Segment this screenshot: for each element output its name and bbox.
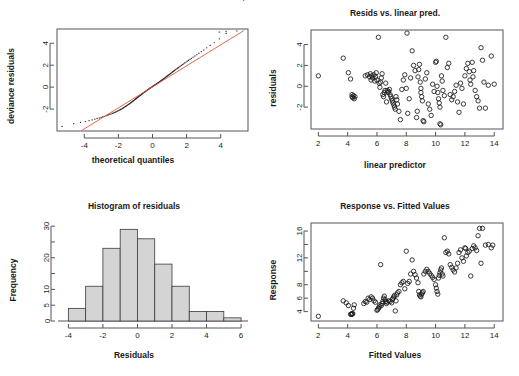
- data-point: [442, 236, 446, 240]
- data-point: [182, 64, 183, 65]
- data-point: [480, 58, 484, 62]
- data-point: [418, 80, 422, 84]
- response-vs-fitted-plot-frame: [311, 223, 503, 321]
- data-point: [463, 74, 467, 78]
- data-point: [447, 61, 451, 65]
- data-point: [482, 80, 486, 84]
- histogram-title: Histogram of residuals: [88, 201, 180, 211]
- data-point: [419, 94, 423, 98]
- qq-xlabel: theoretical quantiles: [92, 155, 175, 165]
- data-point: [411, 63, 415, 67]
- data-point: [194, 55, 195, 56]
- histogram-of-residuals-ytick-label: 10: [43, 284, 52, 293]
- response-plot-content: 24681012144681216: [296, 223, 504, 340]
- data-point: [479, 261, 483, 265]
- data-point: [186, 61, 187, 62]
- data-point: [435, 84, 439, 88]
- resids-vs-linear-pred-ytick-label: 4: [296, 42, 305, 47]
- data-point: [471, 75, 475, 79]
- response-xlabel: Fitted Values: [369, 350, 422, 360]
- data-point: [219, 38, 220, 39]
- data-point: [407, 97, 411, 101]
- resids-ylabel: residuals: [268, 69, 278, 107]
- histogram-of-residuals-ytick-label: 30: [43, 221, 52, 230]
- data-point: [408, 76, 412, 80]
- data-point: [401, 78, 405, 82]
- histogram-bar: [172, 286, 189, 321]
- data-point: [403, 287, 407, 291]
- data-point: [214, 42, 215, 43]
- data-point: [477, 106, 481, 110]
- resids-vs-linear-pred-xtick-label: 8: [404, 139, 409, 148]
- resids-vs-linear-pred-ytick-label: 0: [296, 84, 305, 89]
- histogram-ylabel: Frequency: [8, 258, 18, 301]
- data-point: [380, 72, 384, 76]
- response-vs-fitted-xtick-label: 2: [316, 331, 321, 340]
- qq-plot-ytick-label: -2: [42, 105, 51, 113]
- highlight-data-point: [225, 31, 227, 33]
- data-point: [393, 309, 397, 313]
- data-point: [436, 292, 440, 296]
- resids-vs-linear-pred-plot-frame: [311, 30, 503, 129]
- data-point: [476, 99, 480, 103]
- data-point: [415, 109, 419, 113]
- resids-vs-linear-pred-xtick-label: 14: [490, 139, 499, 148]
- data-point: [376, 35, 380, 39]
- panel-resids-vs-linear-pred: Resids vs. linear pred. 2468101214-2024 …: [259, 0, 519, 190]
- qq-ylabel: deviance residuals: [6, 48, 16, 124]
- data-point: [457, 110, 461, 114]
- data-point: [461, 102, 465, 106]
- data-point: [417, 62, 421, 66]
- data-point: [203, 49, 204, 50]
- resids-vs-linear-pred-ytick-label: 2: [296, 63, 305, 68]
- qq-plot-ytick-label: 4: [42, 40, 51, 45]
- data-point: [185, 61, 186, 62]
- data-point: [483, 106, 487, 110]
- data-point: [445, 65, 449, 69]
- response-vs-fitted-xtick-label: 6: [375, 331, 380, 340]
- response-title: Response vs. Fitted Values: [340, 201, 450, 211]
- histogram-bar: [207, 312, 224, 321]
- data-point: [420, 99, 424, 103]
- data-point: [416, 281, 420, 285]
- response-vs-fitted-ytick-label: 6: [296, 295, 305, 300]
- data-point: [423, 77, 427, 81]
- qq-plot-xtick-label: -4: [81, 141, 89, 150]
- resids-vs-linear-pred-xtick-label: 4: [345, 139, 350, 148]
- data-point: [91, 119, 92, 120]
- histogram-bar: [68, 308, 85, 321]
- data-point: [346, 71, 350, 75]
- data-point: [198, 53, 199, 54]
- data-point: [470, 60, 474, 64]
- data-point: [474, 94, 478, 98]
- data-point: [209, 45, 210, 46]
- data-point: [430, 82, 434, 86]
- data-point: [410, 258, 414, 262]
- histogram-of-residuals-ytick-label: 20: [43, 253, 52, 262]
- data-point: [400, 87, 404, 91]
- data-point: [226, 33, 227, 34]
- data-point: [480, 226, 484, 230]
- histogram-of-residuals-xtick-label: -2: [99, 331, 107, 340]
- response-vs-fitted-ytick-label: 12: [296, 253, 305, 262]
- qq-plot-xtick-label: -2: [115, 141, 123, 150]
- data-point: [455, 100, 459, 104]
- histogram-bars: [68, 229, 241, 321]
- data-point: [316, 314, 320, 318]
- panel-histogram-of-residuals: Histogram of residuals -4-2024605102030 …: [0, 190, 259, 376]
- resids-vs-linear-pred-xtick-label: 10: [431, 139, 440, 148]
- data-point: [452, 89, 456, 93]
- qq-plot-xtick-label: 4: [218, 141, 223, 150]
- data-point: [455, 261, 459, 265]
- qq-plot-ytick-label: 0: [42, 84, 51, 89]
- resids-vs-linear-pred-points: [316, 31, 496, 127]
- data-point: [428, 107, 432, 111]
- data-point: [486, 83, 490, 87]
- data-point: [196, 54, 197, 55]
- data-point: [94, 119, 95, 120]
- data-point: [192, 57, 193, 58]
- qq-plot-content: -4-2024-2024: [42, 0, 249, 150]
- data-point: [454, 83, 458, 87]
- qq-plot-points: [61, 0, 244, 127]
- qq-plot-plot-frame: [57, 29, 248, 131]
